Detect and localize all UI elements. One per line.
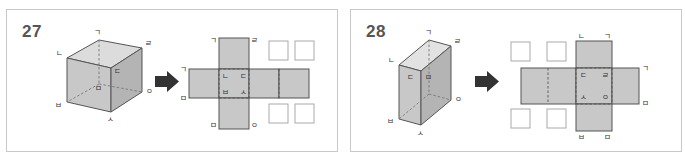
net-label-center-top-right: ㄷ [240,72,247,81]
net-label-center-bottom-right: ㅇ [602,93,609,102]
net-label-center-top-left: ㄴ [222,72,229,81]
right-arrow-glyph [475,71,499,92]
net-label-center-top-right: ㄹ [602,71,609,80]
figure-area-28: ㄱ ㄹ ㄴ ㄷ ㅁ ㅇ ㅂ ㅅ [351,10,681,151]
worksheet-container: 27 ㄱ ㄹ ㄴ [0,0,685,163]
net-label-bottom-right: ㅁ [604,133,611,142]
net-label-left-outer-bottom: ㅁ [180,94,187,103]
arrow-icon-27 [155,71,179,92]
cube-label-top-left-front: ㄴ [56,49,63,58]
net-label-top-left: ㄱ [210,36,217,45]
cube-solid-27: ㄱ ㄹ ㄴ ㄷ ㅇ ㅂ ㅁ ㅅ [55,28,153,124]
net-cell-bottom [576,104,612,131]
cube-label-top-back: ㄱ [94,28,101,37]
net-empty-square-top-2[interactable] [547,42,566,61]
net-label-bottom-right: ㅇ [251,121,258,130]
net-empty-square-bottom-1[interactable] [269,104,288,123]
figure-area-27: ㄱ ㄹ ㄴ ㄷ ㅇ ㅂ ㅁ ㅅ [7,10,337,151]
figure-svg-28: ㄱ ㄹ ㄴ ㄷ ㅁ ㅇ ㅂ ㅅ [351,10,683,153]
net-cell-left [189,69,219,98]
prism-label-top-right-back: ㄹ [454,37,461,46]
net-empty-square-top-1[interactable] [511,42,530,61]
net-label-top-right: ㄱ [604,32,611,41]
prism-label-top-back: ㄱ [425,28,432,37]
net-label-top-left: ㄴ [578,32,585,41]
net-label-center-bottom-left: ㅅ [580,93,587,102]
net-empty-square-bottom-1[interactable] [511,109,530,128]
figure-svg-27: ㄱ ㄹ ㄴ ㄷ ㅇ ㅂ ㅁ ㅅ [7,10,339,153]
panel-28: 28 ㄱ ㄹ ㄴ [350,9,682,152]
net-empty-square-top-1[interactable] [269,41,288,60]
net-label-center-top-left: ㄷ [580,71,587,80]
net-label-right-outer-top: ㄱ [642,64,649,73]
right-arrow-glyph [155,71,179,92]
prism-label-bottom-front: ㅅ [417,129,424,138]
net-cell-right [612,68,639,104]
net-label-left-outer-top: ㄱ [180,65,187,74]
net-empty-square-bottom-2[interactable] [547,109,566,128]
cube-label-bottom-center: ㅁ [95,84,102,93]
prism-label-top-left-front: ㄴ [388,56,395,65]
net-27: ㄱ ㄹ ㄱ ㄴ ㄷ ㅂ ㅅ ㅁ ㅁ ㅇ [180,36,314,130]
net-cell-top [219,38,249,69]
net-cell-left-wide [521,68,576,104]
net-empty-square-top-2[interactable] [295,41,314,60]
prism-label-mid-center: ㅁ [425,73,432,82]
net-label-top-right: ㄹ [251,36,258,45]
net-label-right-outer-bottom: ㅁ [642,99,649,108]
prism-solid-28: ㄱ ㄹ ㄴ ㄷ ㅁ ㅇ ㅂ ㅅ [387,28,462,138]
net-cell-top [576,41,612,68]
arrow-icon-28 [475,71,499,92]
net-cell-right [249,69,279,98]
net-28: ㄴ ㄱ ㄷ ㄹ ㄱ ㅅ ㅇ ㅁ ㅂ ㅁ [511,32,649,142]
cube-label-top-right-front: ㄷ [114,67,121,76]
net-label-bottom-left: ㅁ [210,121,217,130]
prism-label-right-front: ㅇ [455,95,462,104]
cube-label-bottom-front: ㅅ [107,115,114,124]
panel-27: 27 ㄱ ㄹ ㄴ [6,9,338,152]
net-cell-bottom [219,98,249,129]
cube-label-right-front: ㅇ [146,87,153,96]
net-cell-far-right [279,69,309,98]
cube-label-bottom-left: ㅂ [55,101,62,110]
net-label-center-bottom-right: ㅅ [240,88,247,97]
net-empty-square-bottom-2[interactable] [295,104,314,123]
cube-label-top-right-back: ㄹ [145,39,152,48]
net-label-bottom-left: ㅂ [578,133,585,142]
prism-label-mid-left-front: ㄷ [407,73,414,82]
net-label-center-bottom-left: ㅂ [222,88,229,97]
prism-label-bottom-left: ㅂ [387,117,394,126]
